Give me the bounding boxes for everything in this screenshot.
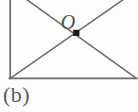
figure-caption: (b) [3, 82, 30, 108]
point-o-label: O [58, 12, 78, 33]
figure-panel-b: O (b) [0, 0, 138, 112]
